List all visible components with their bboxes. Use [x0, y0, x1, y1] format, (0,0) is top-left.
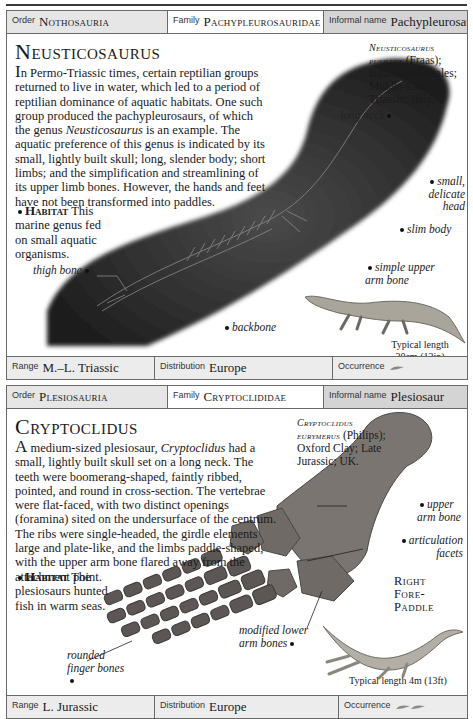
label-upper-arm-bone: upper arm bone [417, 498, 465, 523]
entry-title: Cryptoclidus [15, 414, 138, 440]
label-small-head: small, delicate head [417, 175, 465, 213]
distribution-value: Europe [209, 699, 247, 715]
entry-description: A medium-sized plesiosaur, Cryptoclidus … [15, 440, 277, 584]
entry-cryptoclidus: Order Plesiosauria Family Cryptoclididae… [6, 385, 468, 719]
specimen-caption: Cryptoclidus eurymerus (Philips); Oxford… [297, 416, 387, 468]
range-value: M.–L. Triassic [43, 360, 119, 376]
entry-description: In Permo-Triassic times, certain reptili… [15, 65, 270, 209]
label-upper-arm-bone: simple upper arm bone [365, 261, 435, 286]
occurrence-cell: Occurrence [338, 696, 467, 718]
label-slim-body: slim body [397, 223, 451, 236]
bullet-icon [18, 576, 22, 580]
label-backbone: backbone [222, 321, 276, 334]
typical-length: Typical length 4m (13ft) [343, 675, 453, 687]
specimen-caption: Neusticosaurus pusillus (Fraas); Bitumin… [369, 41, 461, 106]
range-cell: Range M.–L. Triassic [7, 357, 154, 379]
bullet-icon [18, 210, 22, 214]
entry-footer: Range M.–L. Triassic Distribution Europe… [7, 356, 467, 379]
label-articulation-facets: articulation facets [393, 534, 463, 559]
fossil-occurrence-icon [389, 364, 405, 372]
fossil-occurrence-icon [395, 703, 427, 711]
paddle-label: Right Fore-Paddle [394, 575, 444, 614]
entry-title: Neusticosaurus [15, 39, 160, 65]
label-lower-arm-bones: modified lower arm bones [239, 624, 319, 649]
top-rule [6, 4, 467, 6]
distribution-value: Europe [209, 360, 247, 376]
occurrence-cell: Occurrence [332, 357, 467, 379]
range-value: L. Jurassic [43, 699, 99, 715]
neusticosaurus-reconstruction-image [299, 287, 469, 347]
entry-footer: Range L. Jurassic Distribution Europe Oc… [7, 695, 467, 718]
range-cell: Range L. Jurassic [7, 696, 154, 718]
habitat-text: Habitat The plesiosaurs hunted fish in w… [15, 570, 110, 613]
distribution-cell: Distribution Europe [154, 357, 332, 379]
habitat-text: Habitat This marine genus fed on small a… [15, 204, 115, 261]
entry-neusticosaurus: Order Nothosauria Family Pachypleurosaur… [6, 10, 468, 380]
label-long-neck: long neck [340, 109, 394, 122]
cryptoclidus-reconstruction-image [319, 622, 469, 682]
label-finger-bones: rounded finger bones [67, 649, 127, 687]
label-thigh-bone: thigh bone [33, 264, 92, 277]
distribution-cell: Distribution Europe [154, 696, 338, 718]
